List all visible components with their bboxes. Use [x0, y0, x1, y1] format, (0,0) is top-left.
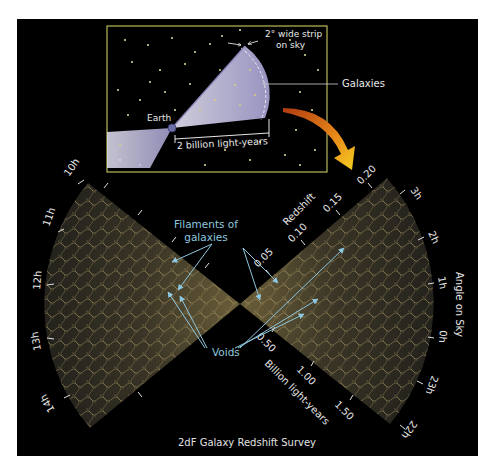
- figure-caption: 2dF Galaxy Redshift Survey: [178, 437, 316, 448]
- angle-axis-title: Angle on Sky: [454, 272, 465, 337]
- strip-width-label-2: on sky: [276, 40, 306, 50]
- svg-text:galaxies: galaxies: [184, 231, 228, 243]
- earth-label: Earth: [147, 113, 171, 123]
- svg-text:0h: 0h: [437, 330, 449, 344]
- svg-text:Filaments of: Filaments of: [174, 218, 238, 230]
- earth-icon: [168, 124, 176, 132]
- strip-width-label: 2° wide strip: [265, 29, 322, 39]
- galaxies-label: Galaxies: [342, 78, 385, 89]
- svg-text:12h: 12h: [31, 270, 44, 290]
- redshift-survey-figure: Earth 2° wide strip on sky Galaxies 2 bi…: [0, 0, 492, 466]
- svg-text:1h: 1h: [436, 275, 449, 289]
